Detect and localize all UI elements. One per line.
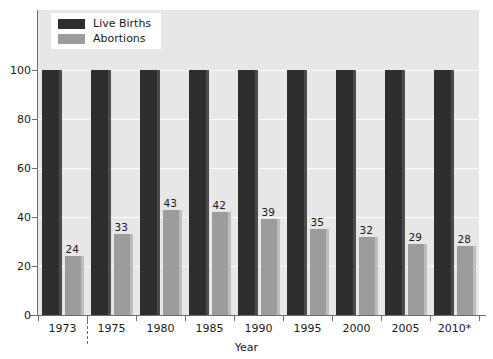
bar-live-births <box>91 70 111 315</box>
legend-item-abortions: Abortions <box>58 33 151 44</box>
bar-live-births <box>336 70 356 315</box>
y-axis-tick-label: 40 <box>17 212 31 223</box>
bar-value-label: 33 <box>115 221 128 233</box>
x-axis-tick <box>430 316 431 321</box>
bar-value-label: 43 <box>164 197 177 209</box>
legend: Live Births Abortions <box>51 13 161 49</box>
x-axis-tick-label: 2000 <box>332 322 381 335</box>
bar-live-births <box>385 70 405 315</box>
y-axis-line <box>37 10 38 316</box>
bar-live-births <box>287 70 307 315</box>
y-axis-tick-label: 80 <box>17 114 31 125</box>
x-axis-tick-label: 2005 <box>381 322 430 335</box>
y-axis-tick <box>32 315 37 316</box>
x-axis-title: Year <box>0 341 493 354</box>
period-separator-line <box>87 316 88 344</box>
bar-abortions <box>261 219 280 315</box>
y-axis-tick <box>32 217 37 218</box>
x-axis-tick-label: 1975 <box>87 322 136 335</box>
bar-value-label: 32 <box>360 224 373 236</box>
y-axis-tick-label: 0 <box>24 310 31 321</box>
bar-abortions <box>457 246 476 315</box>
bar-value-label: 29 <box>409 231 422 243</box>
y-axis-tick <box>32 266 37 267</box>
x-axis-tick <box>479 316 480 321</box>
x-axis-tick-label: 1980 <box>136 322 185 335</box>
y-axis-tick-label: 20 <box>17 261 31 272</box>
bar-value-label: 35 <box>311 216 324 228</box>
bar-live-births <box>189 70 209 315</box>
bar-value-label: 42 <box>213 199 226 211</box>
x-axis-tick-label: 1985 <box>185 322 234 335</box>
legend-label-live-births: Live Births <box>93 18 151 29</box>
y-axis-tick <box>32 70 37 71</box>
x-axis-line <box>30 315 486 316</box>
x-axis-tick <box>38 316 39 321</box>
bar-live-births <box>434 70 454 315</box>
x-axis-tick <box>283 316 284 321</box>
bar-abortions <box>114 234 133 315</box>
bar-abortions <box>310 229 329 315</box>
bar-abortions <box>408 244 427 315</box>
bar-abortions <box>163 210 182 315</box>
bar-abortions <box>212 212 231 315</box>
y-axis-tick-label: 60 <box>17 163 31 174</box>
bar-live-births <box>42 70 62 315</box>
legend-swatch-icon-abortions <box>58 34 85 44</box>
x-axis-tick-label: 2010* <box>430 322 479 335</box>
bar-abortions <box>65 256 84 315</box>
bar-abortions <box>359 237 378 315</box>
legend-label-abortions: Abortions <box>93 33 146 44</box>
bar-value-label: 24 <box>66 243 79 255</box>
bar-chart: 243343423935322928 020406080100 19731975… <box>0 0 493 359</box>
bar-live-births <box>238 70 258 315</box>
x-axis-tick <box>332 316 333 321</box>
y-axis-tick <box>32 168 37 169</box>
bar-value-label: 39 <box>262 206 275 218</box>
x-axis-tick <box>381 316 382 321</box>
y-axis-tick <box>32 119 37 120</box>
x-axis-tick <box>234 316 235 321</box>
legend-swatch-icon-live-births <box>58 19 85 29</box>
bar-value-label: 28 <box>458 233 471 245</box>
bar-live-births <box>140 70 160 315</box>
x-axis-tick <box>185 316 186 321</box>
x-axis-tick-label: 1995 <box>283 322 332 335</box>
x-axis-tick-label: 1990 <box>234 322 283 335</box>
x-axis-tick-label: 1973 <box>38 322 87 335</box>
x-axis-tick <box>136 316 137 321</box>
y-axis-tick-label: 100 <box>10 65 31 76</box>
legend-item-live-births: Live Births <box>58 18 151 29</box>
